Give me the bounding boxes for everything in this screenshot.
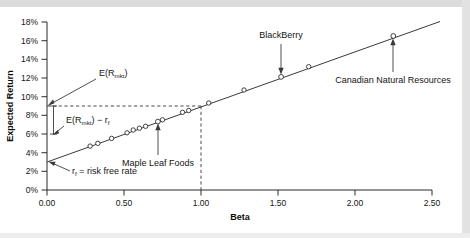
x-axis-title: Beta	[230, 212, 251, 222]
data-point	[180, 110, 184, 114]
y-tick-label: 0%	[26, 185, 39, 195]
y-tick-label: 12%	[21, 73, 38, 83]
x-tick-label: 0.50	[116, 198, 133, 208]
blackberry-label-text: BlackBerry	[259, 30, 303, 40]
y-tick-label: 2%	[26, 166, 39, 176]
data-points	[88, 34, 396, 149]
x-tick-label: 0.00	[39, 198, 56, 208]
data-point-maple-leaf-foods	[156, 119, 161, 124]
y-tick-label: 16%	[21, 36, 38, 46]
data-point	[131, 128, 135, 132]
market-risk-premium-annotation: E(Rmkt) − rf	[50, 106, 110, 135]
data-point	[187, 108, 191, 112]
x-axis-tick-labels: 0.00 0.50 1.00 1.50 2.00 2.50	[39, 198, 441, 208]
data-point	[109, 136, 113, 140]
data-point	[207, 101, 211, 105]
x-tick-label: 1.50	[270, 198, 287, 208]
data-point	[242, 88, 246, 92]
y-axis-tick-labels: 18% 16% 14% 12% 10% 8% 6% 4% 2% 0%	[21, 17, 38, 195]
data-point	[137, 126, 141, 130]
data-point	[96, 141, 100, 145]
x-axis	[47, 190, 432, 196]
data-point-canadian-natural-resources	[391, 34, 396, 39]
y-tick-label: 4%	[26, 148, 39, 158]
y-axis	[42, 22, 48, 190]
expected-market-return-annotation: E(Rmkt)	[48, 68, 128, 106]
expected-market-return-label-text: E(Rmkt)	[99, 68, 127, 79]
data-point	[307, 65, 311, 69]
x-tick-label: 2.00	[347, 198, 364, 208]
data-point	[143, 124, 147, 128]
data-point	[160, 118, 164, 122]
data-point	[88, 144, 92, 148]
y-tick-label: 18%	[21, 17, 38, 27]
canadian-natural-resources-label-text: Canadian Natural Resources	[335, 75, 451, 85]
data-point	[125, 131, 129, 135]
market-risk-premium-label-text: E(Rmkt) − rf	[66, 115, 110, 126]
y-tick-label: 14%	[21, 54, 38, 64]
y-tick-label: 6%	[26, 129, 39, 139]
blackberry-annotation: BlackBerry	[259, 30, 303, 75]
data-point-blackberry	[279, 75, 284, 80]
x-tick-label: 1.00	[193, 198, 210, 208]
canadian-natural-resources-annotation: Canadian Natural Resources	[335, 39, 451, 86]
y-tick-label: 8%	[26, 110, 39, 120]
x-tick-label: 2.50	[424, 198, 441, 208]
security-market-line-chart: 18% 16% 14% 12% 10% 8% 6% 4% 2% 0% Expec…	[0, 0, 470, 238]
y-axis-title: Expected Return	[5, 70, 15, 142]
maple-leaf-foods-label-text: Maple Leaf Foods	[122, 158, 195, 168]
y-tick-label: 10%	[21, 92, 38, 102]
